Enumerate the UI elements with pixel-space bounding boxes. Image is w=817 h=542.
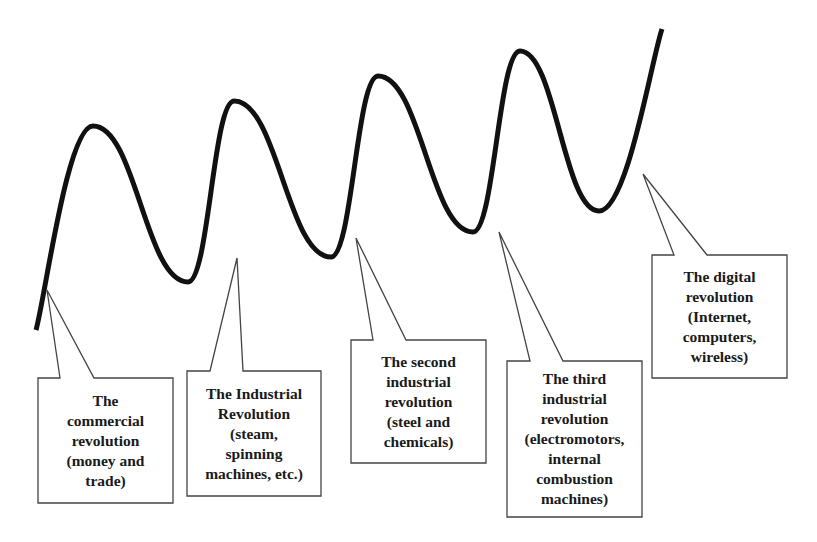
callout-line: chemicals) xyxy=(384,432,454,452)
callout-line: The third xyxy=(543,369,606,389)
callout-commercial-revolution: The commercial revolution (money and tra… xyxy=(38,378,173,503)
callout-line: industrial xyxy=(386,372,451,392)
callout-line: The digital xyxy=(684,267,756,287)
callout-line: The Industrial xyxy=(206,384,302,404)
callout-line: revolution xyxy=(72,431,140,451)
callout-line: revolution xyxy=(385,392,453,412)
callout-line: combustion xyxy=(536,469,613,489)
revolutions-wave-diagram: The commercial revolution (money and tra… xyxy=(0,0,817,542)
callout-line: Revolution xyxy=(218,404,290,424)
callout-line: (Internet, xyxy=(688,307,751,327)
callout-line: spinning xyxy=(226,444,283,464)
callout-line: internal xyxy=(548,449,601,469)
callout-line: (steel and xyxy=(387,412,450,432)
callout-line: industrial xyxy=(542,389,607,409)
callout-digital-revolution: The digital revolution (Internet, comput… xyxy=(652,255,787,378)
callout-second-industrial-revolution: The second industrial revolution (steel … xyxy=(351,340,486,463)
callout-line: (electromotors, xyxy=(525,429,625,449)
callout-line: revolution xyxy=(541,409,609,429)
callout-line: computers, xyxy=(683,327,757,347)
callout-line: The second xyxy=(381,352,456,372)
callout-line: machines) xyxy=(541,489,608,509)
callout-industrial-revolution: The Industrial Revolution (steam, spinni… xyxy=(187,371,321,496)
callout-line: The xyxy=(93,391,119,411)
callout-line: revolution xyxy=(686,287,754,307)
callout-line: trade) xyxy=(85,471,125,491)
callout-line: (steam, xyxy=(230,424,278,444)
callout-line: commercial xyxy=(67,411,144,431)
callout-third-industrial-revolution: The third industrial revolution (electro… xyxy=(507,361,642,517)
callout-line: wireless) xyxy=(691,347,748,367)
callout-line: machines, etc.) xyxy=(205,464,303,484)
callout-line: (money and xyxy=(67,451,145,471)
